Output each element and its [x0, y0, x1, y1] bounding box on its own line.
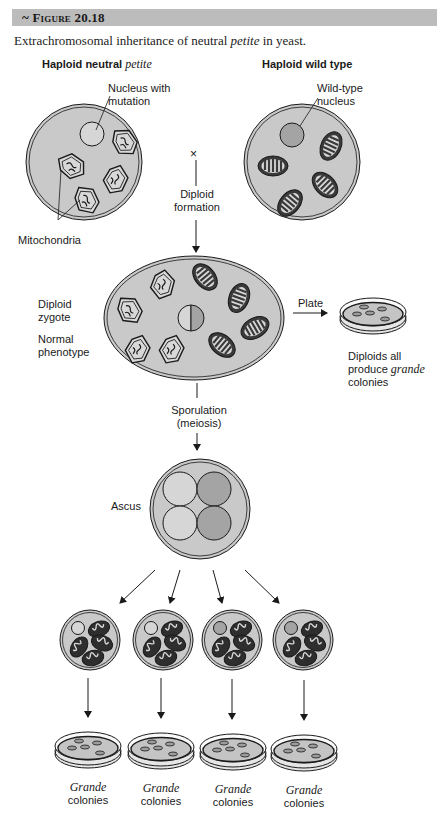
diploid-zygote-cell	[104, 256, 284, 380]
ascus-cell	[150, 459, 250, 559]
spore-cell-3	[202, 610, 262, 670]
spore-cell-4	[273, 610, 333, 670]
haploid-petite-cell	[26, 104, 142, 220]
haploid-wildtype-cell	[244, 104, 360, 221]
ascus-label: Ascus	[111, 500, 141, 513]
diploid-formation-label: Diploidformation	[172, 188, 222, 214]
progeny-result-4: Grandecolonies	[274, 784, 334, 810]
progeny-result-3: Grandecolonies	[203, 783, 263, 809]
nucleus-mutation-label: Nucleus withmutation	[108, 82, 170, 108]
mutant-nucleus	[80, 122, 104, 146]
spore-cell-2	[133, 610, 193, 670]
mitochondria-label: Mitochondria	[18, 234, 81, 247]
progeny-plate-4	[271, 735, 337, 771]
progeny-result-2: Grandecolonies	[131, 782, 191, 808]
progeny-result-1: Grandecolonies	[58, 781, 118, 807]
progeny-plate-3	[200, 734, 266, 770]
haploid-wildtype-title: Haploid wild type	[262, 58, 352, 71]
spore-cell-1	[60, 610, 120, 670]
progeny-plate-1	[55, 732, 121, 768]
wildtype-nucleus-label: Wild-typenucleus	[317, 82, 363, 108]
diploid-plate	[340, 298, 406, 334]
normal-phenotype-label: Normalphenotype	[38, 333, 89, 359]
haploid-petite-title: Haploid neutral petite	[42, 58, 152, 71]
progeny-plate-2	[128, 733, 194, 769]
plate-label: Plate	[298, 297, 323, 310]
wildtype-nucleus	[280, 123, 304, 147]
cross-symbol: ×	[190, 148, 197, 161]
sporulation-label: Sporulation(meiosis)	[167, 404, 231, 430]
diploids-result-label: Diploids allproduce grandecolonies	[348, 350, 425, 389]
diploid-zygote-label: Diploidzygote	[38, 298, 72, 324]
